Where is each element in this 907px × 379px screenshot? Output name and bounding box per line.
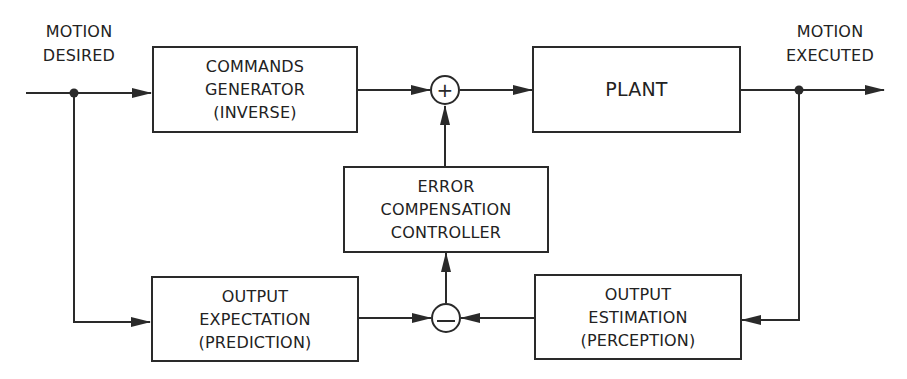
- error-compensation-line1: ERROR: [417, 175, 474, 198]
- motion-executed-label: MOTION EXECUTED: [770, 20, 890, 68]
- motion-executed-line2: EXECUTED: [770, 44, 890, 68]
- wire-input-to-expectation: [74, 93, 150, 322]
- commands-generator-line3: (INVERSE): [213, 101, 296, 124]
- summing-junction-minus: [431, 303, 461, 333]
- control-block-diagram: MOTION DESIRED MOTION EXECUTED COMMANDS …: [0, 0, 907, 379]
- commands-generator-line1: COMMANDS: [206, 55, 304, 78]
- branch-point-input: [70, 89, 79, 98]
- commands-generator-line2: GENERATOR: [205, 78, 305, 101]
- minus-icon: [437, 320, 455, 322]
- branch-point-output: [795, 86, 804, 95]
- output-expectation-line1: OUTPUT: [222, 285, 288, 308]
- plus-icon: +: [437, 80, 454, 100]
- motion-executed-line1: MOTION: [770, 20, 890, 44]
- error-compensation-line2: COMPENSATION: [381, 198, 512, 221]
- output-expectation-block: OUTPUT EXPECTATION (PREDICTION): [151, 276, 359, 362]
- summing-junction-plus: +: [430, 75, 460, 105]
- error-compensation-controller-block: ERROR COMPENSATION CONTROLLER: [343, 166, 549, 253]
- motion-desired-line1: MOTION: [24, 20, 134, 44]
- output-estimation-line2: ESTIMATION: [588, 306, 687, 329]
- output-estimation-line1: OUTPUT: [605, 283, 671, 306]
- output-expectation-line2: EXPECTATION: [199, 308, 311, 331]
- output-expectation-line3: (PREDICTION): [198, 331, 311, 354]
- output-estimation-block: OUTPUT ESTIMATION (PERCEPTION): [534, 274, 742, 360]
- output-estimation-line3: (PERCEPTION): [581, 329, 696, 352]
- error-compensation-line3: CONTROLLER: [391, 221, 501, 244]
- wire-output-to-estimation: [742, 90, 799, 320]
- plant-block: PLANT: [532, 46, 741, 133]
- commands-generator-block: COMMANDS GENERATOR (INVERSE): [152, 46, 358, 133]
- motion-desired-label: MOTION DESIRED: [24, 20, 134, 68]
- motion-desired-line2: DESIRED: [24, 44, 134, 68]
- plant-line1: PLANT: [605, 78, 667, 101]
